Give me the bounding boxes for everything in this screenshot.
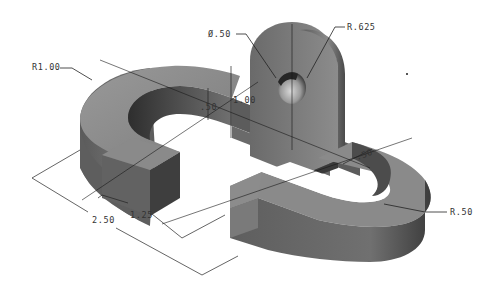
svg-text:.50: .50 bbox=[200, 102, 217, 112]
svg-text:R1.00: R1.00 bbox=[32, 62, 61, 72]
svg-text:1.25: 1.25 bbox=[130, 210, 153, 220]
isometric-part-view: R1.00 Ø.50 R.625 1.00 .50 .50 R.50 1.25 bbox=[0, 0, 496, 299]
dim-radius-outer-left: R1.00 bbox=[32, 62, 92, 80]
artifact-dot bbox=[406, 73, 408, 75]
svg-text:2.50: 2.50 bbox=[92, 215, 115, 225]
svg-text:1.00: 1.00 bbox=[233, 95, 256, 105]
svg-text:R.50: R.50 bbox=[450, 207, 473, 217]
svg-text:R.625: R.625 bbox=[347, 22, 376, 32]
left-hook-body bbox=[80, 66, 240, 226]
cad-drawing: R1.00 Ø.50 R.625 1.00 .50 .50 R.50 1.25 bbox=[0, 0, 496, 299]
svg-text:Ø.50: Ø.50 bbox=[208, 29, 231, 39]
